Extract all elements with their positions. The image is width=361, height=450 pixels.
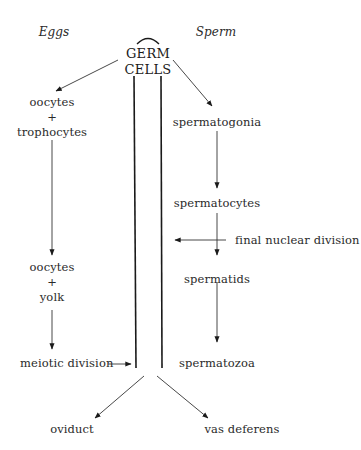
oviduct-label: oviduct [50,422,94,436]
egg-step1-oocytes: oocytes [30,95,75,109]
egg-step2-yolk: yolk [40,290,64,304]
cells-label: CELLS [124,62,171,78]
germ-label: GERM [126,46,170,62]
egg-step1-plus: + [47,110,57,124]
final-nuclear-division-label: final nuclear division [235,233,360,247]
meiotic-division-label: meiotic division [20,356,113,370]
spermatids-label: spermatids [184,272,250,286]
diagram-arrows [0,0,361,450]
sperm-header: Sperm [196,25,237,39]
spermatogonia-label: spermatogonia [173,115,261,129]
egg-step2-plus: + [47,275,57,289]
spermatocytes-label: spermatocytes [174,196,260,210]
spermatozoa-label: spermatozoa [179,356,255,370]
eggs-header: Eggs [39,25,70,39]
egg-step1-trophocytes: trophocytes [17,125,87,139]
egg-step2-oocytes: oocytes [30,260,75,274]
vas-deferens-label: vas deferens [205,422,280,436]
